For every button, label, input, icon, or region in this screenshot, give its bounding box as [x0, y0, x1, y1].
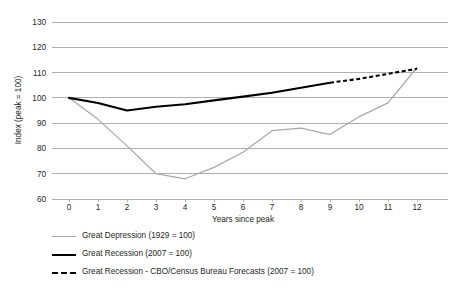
- y-axis-tick-labels: 130 120 110 100 90 80 70 60: [32, 18, 46, 204]
- series-line-forecast: [330, 69, 417, 83]
- legend-swatch-line-icon-depression: [52, 230, 76, 242]
- legend-swatch-dashed-line-icon-forecast: [52, 266, 76, 278]
- legend-item-great-recession: Great Recession (2007 = 100): [52, 245, 452, 263]
- xtick-label-2: 2: [125, 203, 130, 212]
- ytick-label-90: 90: [37, 119, 47, 128]
- legend-item-forecast: Great Recession - CBO/Census Bureau Fore…: [52, 263, 452, 281]
- xtick-label-5: 5: [212, 203, 217, 212]
- series-line-great-recession: [69, 83, 330, 111]
- ytick-label-80: 80: [37, 144, 47, 153]
- xtick-label-12: 12: [412, 203, 422, 212]
- x-axis-title: Years since peak: [212, 215, 275, 224]
- legend-swatch-line-icon-recession: [52, 248, 76, 260]
- xtick-label-11: 11: [384, 203, 393, 212]
- legend-item-great-depression: Great Depression (1929 = 100): [52, 227, 452, 245]
- chart-figure: 130 120 110 100 90 80 70 60 0 1 2 3 4 5 …: [0, 0, 457, 287]
- ytick-label-130: 130: [32, 18, 46, 27]
- ytick-label-60: 60: [37, 195, 47, 204]
- legend-label-great-recession: Great Recession (2007 = 100): [82, 249, 192, 259]
- legend-label-forecast: Great Recession - CBO/Census Bureau Fore…: [82, 267, 314, 277]
- xtick-label-10: 10: [354, 203, 364, 212]
- ytick-label-70: 70: [37, 170, 47, 179]
- x-axis-tick-labels: 0 1 2 3 4 5 6 7 8 9 10 11 12: [67, 203, 422, 212]
- xtick-label-4: 4: [183, 203, 188, 212]
- y-axis-title: Index (peak = 100): [14, 75, 23, 144]
- xtick-label-9: 9: [328, 203, 333, 212]
- xtick-label-8: 8: [299, 203, 304, 212]
- legend-label-great-depression: Great Depression (1929 = 100): [82, 231, 195, 241]
- xtick-label-0: 0: [67, 203, 72, 212]
- gridlines: [52, 22, 448, 199]
- ytick-label-100: 100: [32, 94, 46, 103]
- xtick-label-1: 1: [96, 203, 101, 212]
- xtick-label-7: 7: [270, 203, 275, 212]
- xtick-label-3: 3: [154, 203, 159, 212]
- ytick-label-110: 110: [33, 69, 46, 78]
- xtick-label-6: 6: [241, 203, 246, 212]
- chart-legend: Great Depression (1929 = 100) Great Rece…: [52, 227, 452, 281]
- ytick-label-120: 120: [32, 43, 46, 52]
